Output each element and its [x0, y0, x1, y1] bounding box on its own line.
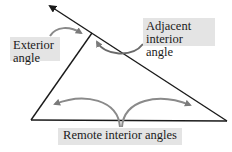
adjacent-angle-label: Adjacent interior angle [143, 18, 215, 46]
remote-angle-left-arrow-icon [55, 99, 120, 127]
remote-angle-right-arrow-icon [122, 99, 190, 127]
remote-angles-label: Remote interior angles [58, 128, 182, 145]
exterior-angle-arrow-icon [50, 28, 81, 36]
base-line [31, 120, 227, 121]
adjacent-angle-label-line2: interior angle [146, 33, 212, 59]
remote-angles-label-text: Remote interior angles [61, 129, 179, 142]
exterior-angle-label: Exterior angle [10, 37, 60, 61]
exterior-angle-label-line2: angle [13, 52, 57, 65]
